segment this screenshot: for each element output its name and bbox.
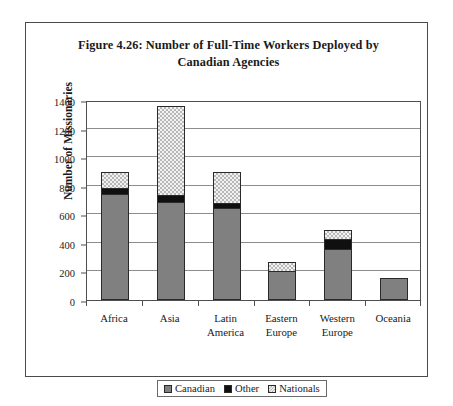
x-axis-labels: AfricaAsiaLatinAmericaEasternEuropeWeste… bbox=[86, 311, 421, 353]
legend-item[interactable]: Canadian bbox=[164, 383, 215, 394]
gridline bbox=[87, 242, 420, 243]
gridline bbox=[87, 270, 420, 271]
y-tick-label: 1000 bbox=[54, 154, 75, 165]
y-tick-label: 1400 bbox=[54, 97, 75, 108]
y-tick-label: 800 bbox=[59, 182, 75, 193]
legend-label: Canadian bbox=[175, 383, 215, 394]
bar-segment-canadian[interactable] bbox=[157, 202, 185, 300]
chart-title: Figure 4.26: Number of Full-Time Workers… bbox=[66, 37, 391, 71]
bar-segment-nationals[interactable] bbox=[101, 172, 129, 189]
x-tick-mark bbox=[365, 301, 366, 306]
x-tick-label: LatinAmerica bbox=[195, 311, 257, 339]
bar-segment-nationals[interactable] bbox=[268, 262, 296, 272]
legend-swatch-canadian bbox=[164, 385, 172, 393]
x-tick-label: EasternEurope bbox=[250, 311, 312, 339]
x-tick-mark bbox=[142, 301, 143, 306]
gridline bbox=[87, 185, 420, 186]
legend-swatch-other bbox=[224, 385, 232, 393]
y-tick-label: 1200 bbox=[54, 125, 75, 136]
gridline bbox=[87, 128, 420, 129]
y-axis-ticks: 0200400600800100012001400 bbox=[26, 101, 86, 303]
y-tick-label: 600 bbox=[59, 211, 75, 222]
chart-legend: CanadianOtherNationals bbox=[157, 380, 327, 397]
bar-segment-nationals[interactable] bbox=[213, 172, 241, 204]
x-tick-mark bbox=[198, 301, 199, 306]
plot-area bbox=[86, 101, 421, 301]
bar-segment-nationals[interactable] bbox=[324, 230, 352, 240]
x-tick-mark bbox=[254, 301, 255, 306]
legend-item[interactable]: Other bbox=[224, 383, 259, 394]
x-tick-mark bbox=[86, 301, 87, 306]
legend-label: Nationals bbox=[279, 383, 320, 394]
y-tick-label: 200 bbox=[59, 268, 75, 279]
x-tick-label: WesternEurope bbox=[306, 311, 368, 339]
figure-frame: Figure 4.26: Number of Full-Time Workers… bbox=[25, 22, 428, 377]
x-tick-mark bbox=[420, 301, 421, 306]
legend-label: Other bbox=[235, 383, 259, 394]
bar-segment-canadian[interactable] bbox=[101, 194, 129, 300]
legend-item[interactable]: Nationals bbox=[268, 383, 320, 394]
bar-segment-canadian[interactable] bbox=[324, 249, 352, 300]
bar-segment-other[interactable] bbox=[157, 195, 185, 203]
gridline bbox=[87, 213, 420, 214]
y-tick-label: 400 bbox=[59, 239, 75, 250]
bar-segment-nationals[interactable] bbox=[157, 106, 185, 196]
gridline bbox=[87, 156, 420, 157]
legend-swatch-nationals bbox=[268, 385, 276, 393]
bar-segment-other[interactable] bbox=[324, 239, 352, 250]
bar-segment-other[interactable] bbox=[213, 203, 241, 210]
x-tick-label: Oceania bbox=[362, 311, 424, 325]
x-tick-label: Asia bbox=[139, 311, 201, 325]
x-tick-label: Africa bbox=[83, 311, 145, 325]
x-tick-mark bbox=[309, 301, 310, 306]
bar-segment-other[interactable] bbox=[101, 188, 129, 195]
y-tick-label: 0 bbox=[70, 297, 75, 308]
bar-segment-canadian[interactable] bbox=[268, 271, 296, 300]
bar-segment-canadian[interactable] bbox=[213, 208, 241, 300]
bar-segment-canadian[interactable] bbox=[380, 278, 408, 300]
